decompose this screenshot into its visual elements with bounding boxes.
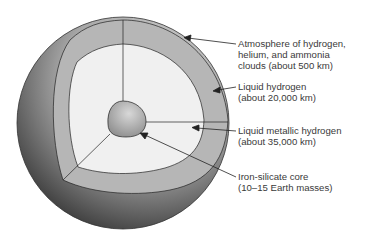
label-atmosphere-line-2: helium, and ammonia: [238, 49, 346, 60]
label-metallic-hydrogen-line-2: (about 35,000 km): [238, 136, 341, 147]
planet-cutaway-diagram: [0, 0, 372, 234]
label-metallic-hydrogen-line-1: Liquid metallic hydrogen: [238, 125, 341, 136]
label-liquid-hydrogen-line-2: (about 20,000 km): [238, 92, 316, 103]
label-liquid-hydrogen: Liquid hydrogen (about 20,000 km): [238, 81, 316, 103]
label-core-line-2: (10–15 Earth masses): [238, 182, 332, 193]
label-core-line-1: Iron-silicate core: [238, 171, 332, 182]
label-atmosphere-line-3: clouds (about 500 km): [238, 60, 346, 71]
label-atmosphere: Atmosphere of hydrogen, helium, and ammo…: [238, 38, 346, 71]
label-liquid-hydrogen-line-1: Liquid hydrogen: [238, 81, 316, 92]
label-atmosphere-line-1: Atmosphere of hydrogen,: [238, 38, 346, 49]
label-metallic-hydrogen: Liquid metallic hydrogen (about 35,000 k…: [238, 125, 341, 147]
label-core: Iron-silicate core (10–15 Earth masses): [238, 171, 332, 193]
